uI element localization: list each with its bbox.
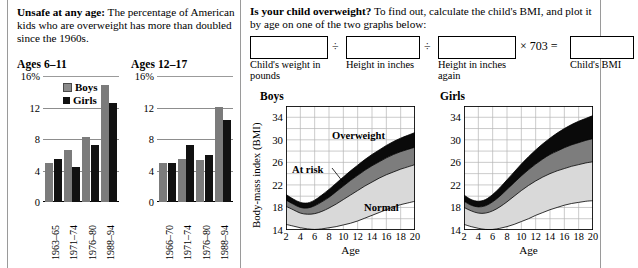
bar-series-group xyxy=(157,76,233,202)
x-axis-tick: 1971–74 xyxy=(68,225,79,260)
bmi-height-label: Height in inches xyxy=(346,59,432,70)
bar-boys xyxy=(159,163,167,202)
bar-boys xyxy=(178,159,186,202)
y-axis-tick: 26 xyxy=(450,157,461,167)
band-label-overweight: Overweight xyxy=(332,130,385,141)
bar-boys xyxy=(45,163,53,202)
x-axis-tick: 10 xyxy=(338,232,348,242)
y-axis-tick: 18 xyxy=(450,202,461,212)
growth-chart-ylabel: Body-mass index (BMI) xyxy=(250,122,262,228)
growth-chart-title: Girls xyxy=(440,90,465,102)
bar-girls xyxy=(205,155,213,202)
x-axis-label: Age xyxy=(519,244,538,256)
bmi-height-input[interactable] xyxy=(346,36,420,59)
x-axis-tick: 1976–80 xyxy=(87,225,98,260)
x-axis-tick: 4 xyxy=(476,232,481,242)
divide-operator-1: ÷ xyxy=(332,39,339,54)
multiply-703-equals: × 703 = xyxy=(520,39,558,54)
y-axis-tick: 12 xyxy=(30,103,41,112)
x-axis-tick: 1976–80 xyxy=(201,225,212,260)
x-axis-tick: 20 xyxy=(410,232,420,242)
left-blurb: Unsafe at any age: The percentage of Ame… xyxy=(17,6,235,46)
x-axis-tick: 18 xyxy=(396,232,406,242)
x-axis-tick: 1988–94 xyxy=(219,225,230,260)
bar-girls xyxy=(223,120,231,202)
bar-girls xyxy=(186,145,194,202)
bar-chart-xaxis-labels: 1966–701971–741976–801988–94 xyxy=(157,206,233,262)
legend-label-boys: Boys xyxy=(75,82,98,94)
right-blurb-lead: Is your child overweight? xyxy=(250,5,371,17)
bar-girls xyxy=(72,167,80,202)
x-axis-tick: 8 xyxy=(326,232,331,242)
x-axis-label: Age xyxy=(341,244,360,256)
x-axis-tick: 14 xyxy=(545,232,555,242)
bar-boys xyxy=(215,107,223,202)
bmi-weight-label: Child's weight in pounds xyxy=(250,59,336,81)
bmi-weight-input[interactable] xyxy=(250,36,328,59)
bmi-result-input[interactable] xyxy=(570,36,634,59)
legend-swatch-boys-icon xyxy=(63,83,72,92)
y-axis-tick: 14 xyxy=(450,225,461,235)
y-axis-tick: 8 xyxy=(35,135,40,144)
growth-chart-title: Boys xyxy=(260,90,284,102)
growth-charts-group: Boys Body-mass index (BMI) 1418222630342… xyxy=(244,90,604,268)
x-axis-tick: 12 xyxy=(353,232,363,242)
y-axis-tick: 18 xyxy=(272,202,283,212)
bmi-result-label: Child's BMI xyxy=(570,59,638,70)
y-axis-tick: 4 xyxy=(35,166,40,175)
legend-label-girls: Girls xyxy=(73,95,97,107)
x-axis-tick: 4 xyxy=(298,232,303,242)
divider-middle xyxy=(240,0,241,268)
y-axis-tick: 14 xyxy=(272,225,283,235)
bar-girls xyxy=(91,145,99,202)
bar-boys xyxy=(196,160,204,202)
x-axis-tick: 6 xyxy=(490,232,495,242)
legend-swatch-girls-icon xyxy=(63,97,70,104)
growth-plot-area: 1418222630342468101214161820Age xyxy=(464,106,593,230)
x-axis-tick: 6 xyxy=(312,232,317,242)
bar-girls xyxy=(168,163,176,202)
right-panel-intro: Is your child overweight? To find out, c… xyxy=(250,5,600,31)
x-axis-tick: 1971–74 xyxy=(182,225,193,260)
bar-chart-ages-6-11: Ages 6–11 16%12840 Boys Girls 1963–65197… xyxy=(17,58,121,264)
x-axis-tick: 18 xyxy=(574,232,584,242)
band-label-normal: Normal xyxy=(364,202,399,213)
bmi-formula: ÷ ÷ × 703 = Child's weight in pounds Hei… xyxy=(250,36,600,84)
divider-left xyxy=(7,0,8,268)
growth-curves-svg xyxy=(464,106,593,230)
bar-girls xyxy=(54,159,62,202)
x-axis-tick: 16 xyxy=(559,232,569,242)
growth-plot-area: 1418222630342468101214161820AgeOverweigh… xyxy=(286,106,415,230)
bar-plot-area: 16%12840 xyxy=(157,76,233,202)
left-blurb-lead: Unsafe at any age: xyxy=(17,6,105,18)
left-panel-intro: Unsafe at any age: The percentage of Ame… xyxy=(17,6,235,46)
bar-chart-title: Ages 12–17 xyxy=(131,58,235,70)
legend-item-boys: Boys xyxy=(63,82,98,94)
bar-boys xyxy=(64,150,72,202)
band-label-at-risk: At risk xyxy=(292,164,324,175)
y-axis-tick: 4 xyxy=(149,166,154,175)
y-axis-tick: 12 xyxy=(144,103,155,112)
x-axis-tick: 14 xyxy=(367,232,377,242)
y-axis-tick: 30 xyxy=(272,135,283,145)
x-axis-tick: 2 xyxy=(461,232,466,242)
bmi-height2-input[interactable] xyxy=(438,36,516,59)
x-axis-tick: 1966–70 xyxy=(164,225,175,260)
growth-chart-girls: Girls 1418222630342468101214161820Age xyxy=(424,90,604,268)
divide-operator-2: ÷ xyxy=(424,39,431,54)
y-axis-tick: 0 xyxy=(35,198,40,207)
x-axis-tick: 12 xyxy=(531,232,541,242)
bar-chart-title: Ages 6–11 xyxy=(17,58,121,70)
y-axis-tick: 34 xyxy=(450,112,461,122)
bar-chart-xaxis-labels: 1963–651971–741976–801988–94 xyxy=(43,206,119,262)
y-axis-tick: 16% xyxy=(135,72,154,81)
bar-chart-legend: Boys Girls xyxy=(63,82,98,107)
y-axis-tick: 30 xyxy=(450,135,461,145)
bar-girls xyxy=(109,103,117,202)
bar-charts-group: Ages 6–11 16%12840 Boys Girls 1963–65197… xyxy=(17,58,237,264)
y-axis-tick: 16% xyxy=(21,72,40,81)
x-axis-tick: 20 xyxy=(588,232,598,242)
x-axis-tick: 1963–65 xyxy=(50,225,61,260)
y-axis-tick: 8 xyxy=(149,135,154,144)
